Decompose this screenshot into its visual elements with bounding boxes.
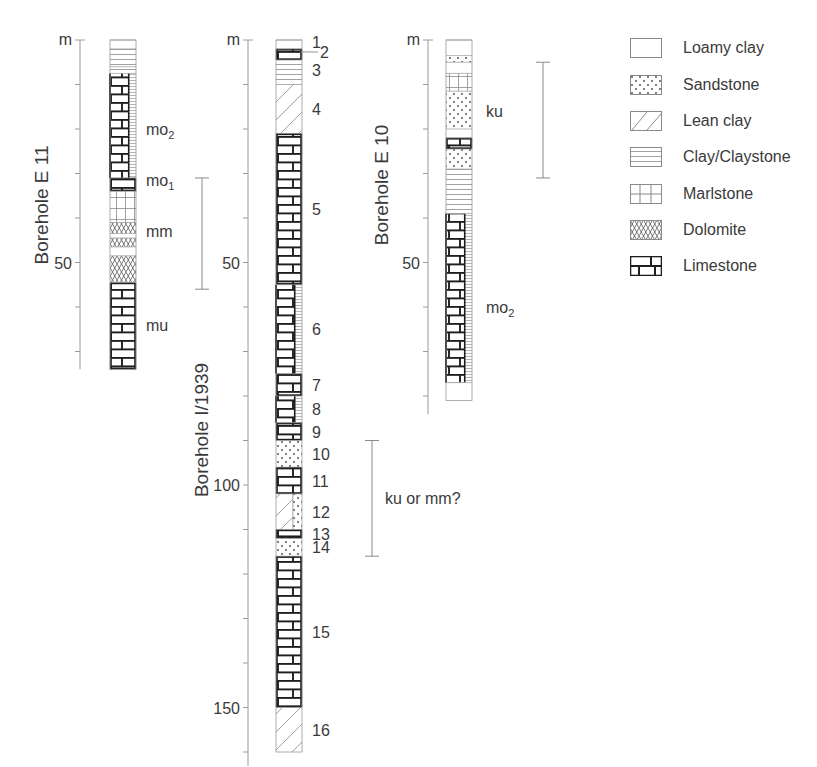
layer-limestone (276, 423, 302, 441)
layer-number: 14 (312, 539, 330, 556)
depth-tick-label: 150 (213, 700, 240, 717)
clay-claystone-swatch-icon (630, 147, 662, 167)
limestone-swatch-icon (630, 256, 662, 276)
legend-label: Sandstone (683, 75, 760, 95)
borehole-i1939: m50100150Borehole I/19391234567891011121… (191, 31, 461, 766)
layer-leanclay (276, 85, 302, 134)
layer-marl (446, 73, 472, 91)
legend-label: Limestone (683, 256, 757, 276)
strat-label: ku (486, 103, 503, 120)
layer-number: 4 (312, 101, 321, 118)
layer-number: 15 (312, 624, 330, 641)
layer-number: 2 (320, 44, 329, 61)
legend-label: Loamy clay (683, 38, 764, 58)
layer-loamy (446, 383, 472, 401)
layer-limestone (110, 178, 136, 191)
legend-item-loamy-clay: Loamy clay (630, 38, 817, 58)
layer-limestone (276, 374, 302, 396)
layer-clay (446, 169, 472, 214)
layer-clay (110, 67, 136, 74)
layer-limestone (276, 49, 302, 60)
sandstone-swatch-icon (630, 75, 662, 95)
marlstone-swatch-icon (630, 184, 662, 204)
legend-item-sandstone: Sandstone (630, 75, 817, 95)
strat-label: mo1 (146, 172, 174, 192)
dolomite-swatch-icon (630, 220, 662, 240)
legend-item-clay-claystone: Clay/Claystone (630, 147, 817, 167)
range-bar (536, 62, 550, 178)
layer-number: 6 (312, 321, 321, 338)
layer-loamy (446, 62, 472, 73)
depth-unit-label: m (407, 31, 420, 48)
borehole-title: Borehole I/1939 (191, 363, 212, 497)
layer-limestone-clay-half (446, 214, 472, 383)
layer-sandstone (446, 56, 472, 63)
depth-tick-label: 50 (54, 255, 72, 272)
layer-loamy (110, 40, 136, 49)
layer-loamy (446, 129, 472, 138)
legend-item-lean-clay: Lean clay (630, 111, 817, 131)
lean-clay-swatch-icon (630, 111, 662, 131)
layer-limestone (276, 467, 302, 494)
layer-limestone (276, 530, 302, 539)
layer-limestone-clay-half (276, 396, 302, 423)
borehole-columns: m50Borehole E 11mo2mo1mmmum50100150Boreh… (31, 31, 550, 766)
borehole-e10: m50Borehole E 10kumo2 (371, 31, 550, 414)
layer-limestone (276, 133, 302, 284)
layer-sandstone (446, 91, 472, 129)
layer-dolomite (110, 256, 136, 283)
depth-unit-label: m (59, 31, 72, 48)
range-bar (195, 178, 209, 289)
layer-number: 16 (312, 722, 330, 739)
legend-label: Marlstone (683, 184, 753, 204)
layer-marl (110, 191, 136, 222)
borehole-e11: m50Borehole E 11mo2mo1mmmu (31, 31, 209, 369)
borehole-title: Borehole E 10 (371, 125, 392, 245)
legend-label: Dolomite (683, 220, 746, 240)
layer-number: 10 (312, 446, 330, 463)
layer-number: 5 (312, 201, 321, 218)
layer-loamy (110, 247, 136, 256)
layer-limestone (276, 556, 302, 707)
layer-sandstone (446, 149, 472, 169)
layer-number: 7 (312, 377, 321, 394)
legend-item-dolomite: Dolomite (630, 220, 817, 240)
layer-loamy (276, 40, 302, 49)
strat-label: mo2 (146, 121, 174, 141)
layer-clay (276, 60, 302, 84)
layer-number: 3 (312, 62, 321, 79)
layer-number: 11 (312, 473, 329, 490)
layer-dolomite (110, 222, 136, 233)
layer-limestone-clay-half (276, 285, 302, 374)
depth-tick-label: 50 (402, 255, 420, 272)
layer-loamy (110, 234, 136, 238)
layer-limestone (446, 138, 472, 149)
layer-clay (110, 49, 136, 67)
layer-limestone-marl-half (110, 73, 136, 178)
layer-dolomite (110, 238, 136, 247)
depth-tick-label: 100 (213, 477, 240, 494)
loamy-clay-swatch-icon (630, 38, 662, 58)
legend-item-marlstone: Marlstone (630, 184, 817, 204)
depth-unit-label: m (227, 31, 240, 48)
strat-label: mu (146, 317, 168, 334)
legend-label: Lean clay (683, 111, 752, 131)
layer-sandstone (276, 538, 302, 556)
layer-loamy (446, 40, 472, 56)
legend-item-limestone: Limestone (630, 256, 817, 276)
range-label: ku or mm? (385, 490, 461, 507)
layer-sandstone (276, 441, 302, 468)
strat-label: mm (146, 223, 173, 240)
layer-leanclay-sand-half (276, 494, 302, 530)
depth-tick-label: 50 (222, 255, 240, 272)
strat-label: mo2 (486, 299, 514, 319)
borehole-title: Borehole E 11 (31, 145, 52, 264)
range-bar: ku or mm? (365, 441, 461, 557)
layer-number: 8 (312, 401, 321, 418)
layer-number: 9 (312, 424, 321, 441)
layer-limestone (110, 283, 136, 370)
legend-label: Clay/Claystone (683, 147, 791, 167)
layer-leanclay (276, 708, 302, 753)
layer-number: 12 (312, 504, 330, 521)
